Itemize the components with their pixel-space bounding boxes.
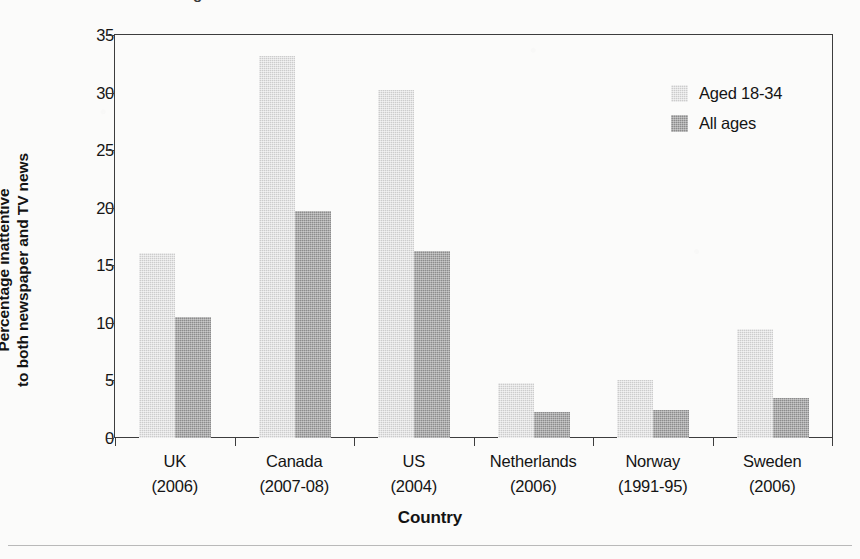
x-axis-tick-label-name: UK bbox=[163, 452, 186, 470]
bar bbox=[653, 410, 689, 438]
bar bbox=[414, 251, 450, 438]
bar bbox=[378, 90, 414, 438]
x-axis-tick-mark bbox=[354, 438, 355, 446]
y-axis-tick-mark bbox=[107, 35, 114, 36]
y-axis-tick-mark bbox=[107, 323, 114, 324]
y-axis-tick-mark bbox=[107, 265, 114, 266]
y-axis-tick-mark bbox=[107, 93, 114, 94]
bar bbox=[737, 329, 773, 438]
bar-group bbox=[354, 35, 474, 438]
x-axis-tick-marks bbox=[115, 438, 833, 446]
x-axis-title: Country bbox=[0, 508, 860, 528]
x-axis-tick-label-name: Canada bbox=[266, 452, 323, 470]
bar bbox=[139, 253, 175, 438]
bar bbox=[295, 211, 331, 438]
x-axis-tick-label-name: Norway bbox=[625, 452, 680, 470]
bar-group bbox=[115, 35, 235, 438]
x-axis-tick-label-name: Netherlands bbox=[490, 452, 577, 470]
x-axis-tick-label-name: Sweden bbox=[743, 452, 801, 470]
bar bbox=[773, 398, 809, 438]
figure-page: g Percentage inattentive to both newspap… bbox=[0, 0, 860, 559]
bar bbox=[175, 317, 211, 438]
bar bbox=[498, 383, 534, 438]
bar-group bbox=[474, 35, 594, 438]
x-axis-tick-mark bbox=[832, 438, 833, 446]
x-axis-tick-mark bbox=[115, 438, 116, 446]
legend-swatch-icon-aged-18-34 bbox=[671, 85, 688, 102]
bar bbox=[534, 412, 570, 438]
page-rule bbox=[8, 545, 852, 546]
y-axis-tick-mark bbox=[107, 380, 114, 381]
x-axis-tick-label-name: US bbox=[402, 452, 425, 470]
y-axis-tick-mark bbox=[107, 438, 114, 439]
x-axis-tick-mark bbox=[593, 438, 594, 446]
y-axis-tick-mark bbox=[107, 208, 114, 209]
x-axis-tick-label-period: (2006) bbox=[702, 474, 842, 499]
x-axis-tick-label: Sweden(2006) bbox=[702, 449, 842, 499]
y-axis-title-line-2: to both newspaper and TV news bbox=[13, 153, 32, 387]
bar bbox=[617, 380, 653, 438]
legend-item-aged-18-34: Aged 18-34 bbox=[671, 78, 821, 108]
bar-group bbox=[235, 35, 355, 438]
y-axis-title: Percentage inattentive to both newspaper… bbox=[0, 120, 35, 420]
x-axis-tick-mark bbox=[235, 438, 236, 446]
x-axis-tick-mark bbox=[474, 438, 475, 446]
legend-swatch-icon-all-ages bbox=[671, 115, 688, 132]
x-axis-tick-labels: UK(2006)Canada(2007-08)US(2004)Netherlan… bbox=[115, 449, 833, 509]
legend-label-all-ages: All ages bbox=[699, 114, 756, 133]
y-axis-title-line-1: Percentage inattentive bbox=[0, 188, 13, 351]
legend-label-aged-18-34: Aged 18-34 bbox=[699, 84, 782, 103]
y-axis-tick-mark bbox=[107, 150, 114, 151]
cropped-title-descender: g bbox=[193, 0, 209, 2]
bar bbox=[259, 56, 295, 438]
x-axis-tick-mark bbox=[713, 438, 714, 446]
legend: Aged 18-34 All ages bbox=[671, 78, 821, 138]
legend-item-all-ages: All ages bbox=[671, 108, 821, 138]
